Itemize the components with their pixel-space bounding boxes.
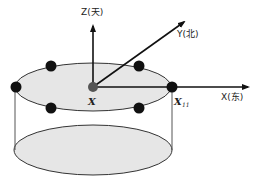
sensor-dot [46, 61, 57, 72]
center-label: X [87, 96, 97, 107]
sensor-dot [134, 61, 145, 72]
center-dot [88, 82, 98, 92]
edge-label-subscript: 11 [182, 101, 190, 108]
z-axis-label: Z(天) [81, 7, 103, 17]
sensor-dot [134, 103, 145, 114]
y-axis-label: Y(北) [176, 29, 199, 39]
cylinder-coordinate-diagram: Z(天) Y(北) X(东) X X 11 [0, 0, 255, 183]
sensor-dot-x11 [167, 82, 178, 93]
bottom-ellipse [14, 125, 172, 175]
sensor-dot [46, 103, 57, 114]
x-axis-label: X(东) [221, 91, 243, 102]
sensor-dot [11, 82, 22, 93]
